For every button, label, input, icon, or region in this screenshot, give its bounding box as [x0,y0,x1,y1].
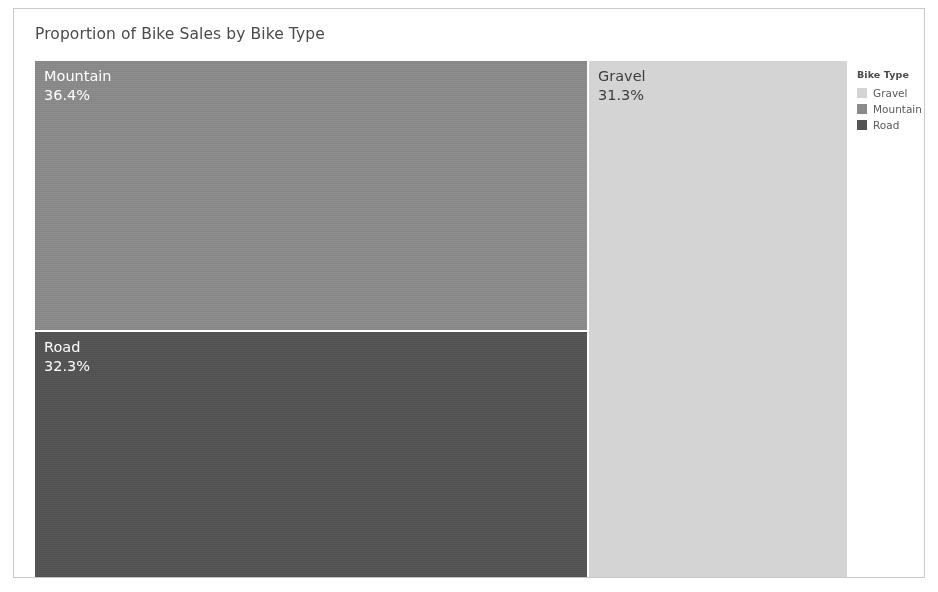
legend-swatch-gravel-icon [857,88,867,98]
legend-item-gravel[interactable]: Gravel [857,85,935,100]
treemap-tile-mountain-category: Mountain [44,67,112,86]
legend-swatch-road-icon [857,120,867,130]
page-title: Proportion of Bike Sales by Bike Type [35,25,325,43]
legend-item-mountain[interactable]: Mountain [857,101,935,116]
treemap-tile-road-percent: 32.3% [44,357,90,376]
legend: Bike Type Gravel Mountain Road [857,69,935,133]
legend-item-road[interactable]: Road [857,117,935,132]
legend-swatch-mountain-icon [857,104,867,114]
treemap-tile-road-category: Road [44,338,90,357]
legend-label-gravel: Gravel [873,87,907,99]
treemap-tile-mountain-label: Mountain 36.4% [44,67,112,105]
visualization-frame: Proportion of Bike Sales by Bike Type Mo… [13,8,925,578]
treemap-tile-road[interactable]: Road 32.3% [35,332,587,577]
legend-label-road: Road [873,119,899,131]
treemap-tile-mountain[interactable]: Mountain 36.4% [35,61,587,330]
treemap-chart: Mountain 36.4% Road 32.3% Gravel 31.3% [35,61,847,577]
treemap-tile-gravel[interactable]: Gravel 31.3% [589,61,847,577]
legend-label-mountain: Mountain [873,103,922,115]
treemap-tile-gravel-category: Gravel [598,67,646,86]
legend-title: Bike Type [857,69,935,80]
treemap-tile-mountain-percent: 36.4% [44,86,112,105]
treemap-tile-gravel-label: Gravel 31.3% [598,67,646,105]
treemap-tile-gravel-percent: 31.3% [598,86,646,105]
treemap-tile-road-label: Road 32.3% [44,338,90,376]
